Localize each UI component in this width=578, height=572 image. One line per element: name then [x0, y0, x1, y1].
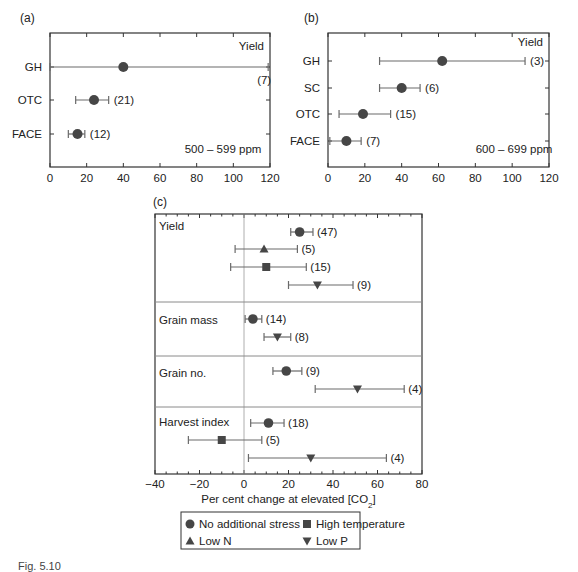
circle-marker-icon — [248, 314, 258, 324]
x-axis-label: Per cent change at elevated [CO2] — [201, 493, 376, 510]
panel-title: Yield — [518, 36, 543, 48]
x-tick-label: 60 — [432, 172, 445, 184]
x-tick-label: 100 — [224, 172, 243, 184]
x-tick-label: 20 — [358, 172, 371, 184]
group-label: Harvest index — [159, 416, 230, 428]
sample-size-label: (5) — [266, 434, 280, 446]
ppm-annotation: 600 – 699 ppm — [476, 143, 553, 155]
sample-size-label: (9) — [306, 365, 320, 377]
circle-marker-icon — [281, 366, 291, 376]
sample-size-label: (21) — [114, 94, 135, 106]
circle-marker-icon — [186, 520, 195, 529]
x-tick-label: 40 — [395, 172, 408, 184]
sample-size-label: (7) — [257, 74, 271, 86]
sample-size-label: (9) — [357, 279, 371, 291]
square-marker-icon — [303, 520, 311, 528]
circle-marker-icon — [73, 129, 83, 139]
panel-label: (c) — [153, 195, 167, 209]
sample-size-label: (7) — [366, 135, 380, 147]
group-grain-no: Grain no.(9)(4) — [155, 356, 422, 395]
figure-caption: Fig. 5.10 — [18, 560, 61, 572]
sample-size-label: (5) — [301, 243, 315, 255]
y-category-label: GH — [303, 55, 320, 67]
circle-marker-icon — [118, 62, 128, 72]
x-tick-label: 0 — [47, 172, 53, 184]
x-tick-label: 120 — [260, 172, 279, 184]
x-tick-label: 20 — [282, 478, 295, 490]
circle-marker-icon — [358, 109, 368, 119]
x-tick-label: 40 — [327, 478, 340, 490]
group-grain-mass: Grain mass(14)(8) — [155, 302, 422, 343]
x-tick-label: 0 — [241, 478, 247, 490]
x-tick-label: 20 — [80, 172, 93, 184]
panel-b: (b)020406080100120Yield600 – 699 ppmGH(3… — [290, 11, 559, 184]
y-category-label: GH — [25, 61, 42, 73]
circle-marker-icon — [341, 136, 351, 146]
group-label: Grain mass — [159, 314, 218, 326]
x-tick-label: −20 — [190, 478, 210, 490]
panel-c: (c)−40−20020406080Per cent change at ele… — [145, 195, 428, 510]
group-label: Yield — [159, 220, 184, 232]
panel-label: (b) — [304, 11, 319, 25]
sample-size-label: (12) — [90, 128, 111, 140]
sample-size-label: (4) — [390, 452, 404, 464]
sample-size-label: (15) — [396, 108, 417, 120]
circle-marker-icon — [397, 83, 407, 93]
x-tick-label: 80 — [416, 478, 429, 490]
circle-marker-icon — [437, 56, 447, 66]
legend: No additional stressHigh temperatureLow … — [181, 512, 405, 549]
legend-label: Low P — [316, 535, 348, 547]
sample-size-label: (3) — [530, 55, 544, 67]
sample-size-label: (4) — [408, 383, 422, 395]
sample-size-label: (15) — [310, 261, 331, 273]
square-marker-icon — [218, 436, 226, 444]
y-category-label: FACE — [12, 128, 42, 140]
square-marker-icon — [262, 263, 270, 271]
x-tick-label: 80 — [469, 172, 482, 184]
x-tick-label: 100 — [503, 172, 522, 184]
x-tick-label: 80 — [190, 172, 203, 184]
y-category-label: OTC — [296, 108, 320, 120]
sample-size-label: (14) — [266, 313, 287, 325]
x-tick-label: −40 — [145, 478, 165, 490]
sample-size-label: (6) — [425, 82, 439, 94]
group-yield: Yield(47)(5)(15)(9) — [159, 220, 371, 291]
circle-marker-icon — [295, 227, 305, 237]
y-category-label: SC — [304, 82, 320, 94]
x-tick-label: 60 — [371, 478, 384, 490]
y-category-label: OTC — [18, 94, 42, 106]
group-harvest-index: Harvest index(18)(5)(4) — [155, 407, 422, 464]
legend-label: Low N — [199, 535, 232, 547]
plot-frame — [155, 214, 422, 474]
panel-a: (a)020406080100120Yield500 – 599 ppmGH(7… — [12, 11, 280, 184]
panel-title: Yield — [239, 40, 264, 52]
legend-label: No additional stress — [199, 518, 300, 530]
y-category-label: FACE — [290, 135, 320, 147]
x-tick-label: 60 — [154, 172, 167, 184]
x-tick-label: 120 — [539, 172, 558, 184]
sample-size-label: (8) — [295, 331, 309, 343]
x-tick-label: 0 — [325, 172, 331, 184]
group-label: Grain no. — [159, 367, 206, 379]
sample-size-label: (47) — [317, 226, 338, 238]
circle-marker-icon — [89, 95, 99, 105]
panel-label: (a) — [20, 11, 35, 25]
legend-entry: High temperature — [303, 518, 405, 530]
sample-size-label: (18) — [288, 417, 309, 429]
ppm-annotation: 500 – 599 ppm — [185, 143, 262, 155]
circle-marker-icon — [264, 418, 274, 428]
legend-label: High temperature — [316, 518, 405, 530]
legend-entry: No additional stress — [186, 518, 301, 530]
x-tick-label: 40 — [117, 172, 130, 184]
